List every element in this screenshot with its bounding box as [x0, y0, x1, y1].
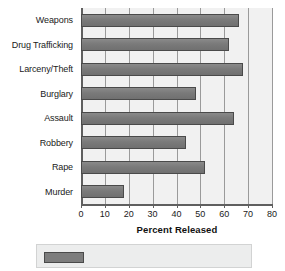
bar-drug-trafficking: [81, 38, 229, 51]
x-tick-label: 10: [100, 209, 110, 219]
y-axis-label: Murder: [0, 180, 77, 205]
bar-chart-figure: WeaponsDrug TraffickingLarceny/TheftBurg…: [0, 0, 285, 271]
bar-row: [81, 155, 272, 180]
bar-row: [81, 57, 272, 82]
y-axis-label: Drug Trafficking: [0, 33, 77, 58]
bar-rape: [81, 161, 205, 174]
y-axis-label: Larceny/Theft: [0, 57, 77, 82]
x-tick-80: [272, 204, 273, 208]
x-tick-label: 30: [148, 209, 158, 219]
bar-row: [81, 106, 272, 131]
y-axis-labels: WeaponsDrug TraffickingLarceny/TheftBurg…: [0, 8, 77, 204]
x-tick-40: [177, 204, 178, 208]
y-axis-label: Assault: [0, 106, 77, 131]
x-tick-20: [129, 204, 130, 208]
bar-row: [81, 82, 272, 107]
x-tick-0: [81, 204, 82, 208]
legend-swatch: [44, 252, 84, 263]
bar-row: [81, 8, 272, 33]
x-tick-70: [248, 204, 249, 208]
x-tick-label: 80: [267, 209, 277, 219]
x-tick-60: [224, 204, 225, 208]
bar-robbery: [81, 136, 186, 149]
bars-layer: [81, 8, 272, 204]
y-axis-label: Rape: [0, 155, 77, 180]
x-tick-label: 50: [195, 209, 205, 219]
bar-row: [81, 131, 272, 156]
bar-larceny-theft: [81, 63, 243, 76]
x-tick-label: 20: [124, 209, 134, 219]
bar-row: [81, 180, 272, 205]
x-tick-label: 0: [78, 209, 83, 219]
bar-row: [81, 33, 272, 58]
bar-assault: [81, 112, 234, 125]
x-tick-label: 60: [219, 209, 229, 219]
y-axis-label: Burglary: [0, 82, 77, 107]
x-tick-50: [200, 204, 201, 208]
y-axis-label: Robbery: [0, 131, 77, 156]
x-axis-title: Percent Released: [81, 224, 273, 235]
bar-murder: [81, 185, 124, 198]
gridline-80: [272, 8, 273, 204]
x-tick-label: 70: [243, 209, 253, 219]
bar-burglary: [81, 87, 196, 100]
x-tick-label: 40: [171, 209, 181, 219]
x-tick-30: [153, 204, 154, 208]
y-axis-label: Weapons: [0, 8, 77, 33]
x-tick-10: [105, 204, 106, 208]
bar-weapons: [81, 14, 239, 27]
